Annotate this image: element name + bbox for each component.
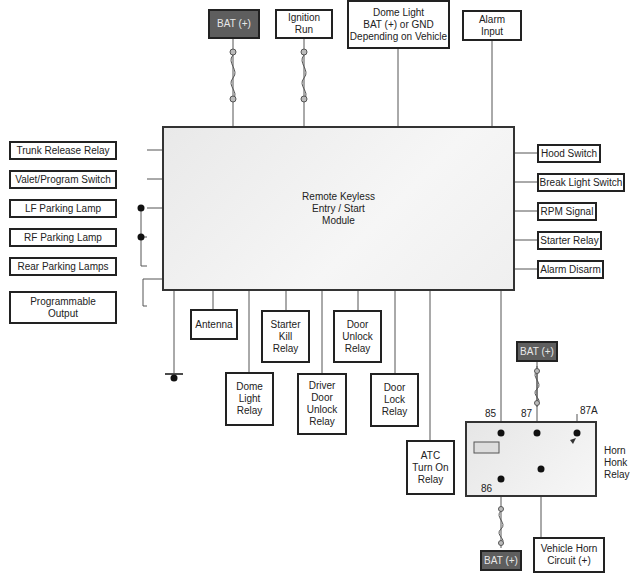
vehicle-horn-circuit-box: Vehicle Horn Circuit (+) xyxy=(533,537,605,573)
relay-bat-bottom-box: BAT (+) xyxy=(480,550,522,571)
pin-86-label: 86 xyxy=(481,483,492,495)
horn-honk-relay-label: Horn Honk Relay xyxy=(604,445,630,481)
pin-87a-label: 87A xyxy=(580,405,598,417)
pin-87-label: 87 xyxy=(521,408,532,420)
pin-85-label: 85 xyxy=(485,408,496,420)
relay-internals xyxy=(0,0,635,576)
